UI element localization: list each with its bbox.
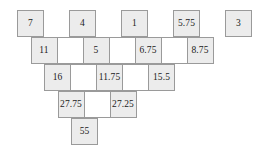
pyramid-value-cell[interactable]: 3: [225, 10, 252, 37]
pyramid-value-cell[interactable]: 11.75: [96, 64, 123, 91]
pyramid-value-cell[interactable]: 7: [17, 10, 44, 37]
pyramid-gap: [43, 10, 70, 37]
pyramid-empty-cell[interactable]: [161, 37, 188, 64]
pyramid-value-cell[interactable]: 8.75: [187, 37, 214, 64]
pyramid-empty-cell[interactable]: [70, 64, 97, 91]
pyramid-value-cell[interactable]: 27.75: [58, 91, 85, 118]
pyramid-value-cell[interactable]: 16: [44, 64, 71, 91]
pyramid-value-cell[interactable]: 5: [83, 37, 110, 64]
pyramid-value-cell[interactable]: 4: [69, 10, 96, 37]
pyramid-value-cell[interactable]: 11: [31, 37, 58, 64]
pyramid-value-cell[interactable]: 5.75: [173, 10, 200, 37]
pyramid-row: 27.7527.25: [58, 91, 137, 118]
pyramid-row: 1156.758.75: [31, 37, 214, 64]
pyramid-value-cell[interactable]: 6.75: [135, 37, 162, 64]
pyramid-value-cell[interactable]: 55: [71, 118, 98, 145]
pyramid-value-cell[interactable]: 1: [121, 10, 148, 37]
pyramid-gap: [95, 10, 122, 37]
pyramid-value-cell[interactable]: 15.5: [148, 64, 175, 91]
pyramid-empty-cell[interactable]: [122, 64, 149, 91]
pyramid-empty-cell[interactable]: [84, 91, 111, 118]
pyramid-gap: [147, 10, 174, 37]
pyramid-empty-cell[interactable]: [57, 37, 84, 64]
pyramid-row: 55: [71, 118, 98, 145]
pyramid-value-cell[interactable]: 27.25: [110, 91, 137, 118]
pyramid-gap: [199, 10, 226, 37]
number-pyramid: 7415.7531156.758.751611.7515.527.7527.25…: [0, 0, 263, 151]
pyramid-empty-cell[interactable]: [109, 37, 136, 64]
pyramid-row: 1611.7515.5: [44, 64, 175, 91]
pyramid-row: 7415.753: [17, 10, 252, 37]
